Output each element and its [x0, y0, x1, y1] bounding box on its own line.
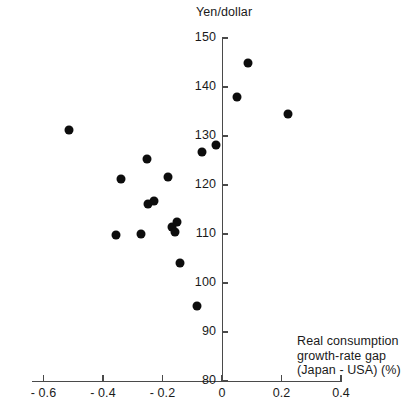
x-axis-caption-line-2: (Japan - USA) (%)	[297, 363, 401, 378]
x-tick-label-4: 0.2	[257, 386, 307, 400]
data-point	[176, 259, 185, 268]
y-tick-label-90: 90	[186, 324, 216, 338]
y-axis-line	[222, 38, 223, 382]
data-point	[198, 147, 207, 156]
data-point	[243, 58, 252, 67]
x-tick-1	[102, 375, 103, 381]
x-axis-caption-line-0: Real consumption	[297, 334, 401, 349]
y-tick-label-130: 130	[186, 128, 216, 142]
y-tick-label-80: 80	[186, 373, 216, 387]
data-point	[193, 302, 202, 311]
x-tick-label-1: - 0.4	[78, 386, 128, 400]
x-tick-label-2: - 0.2	[138, 386, 188, 400]
y-tick-80	[222, 380, 228, 381]
x-axis-caption-line-1: growth-rate gap	[297, 349, 401, 364]
data-point	[170, 227, 179, 236]
data-point	[149, 197, 158, 206]
x-tick-0	[43, 375, 44, 381]
x-tick-3	[221, 375, 222, 381]
data-point	[164, 173, 173, 182]
x-tick-label-0: - 0.6	[19, 386, 69, 400]
scatter-plot-figure: Yen/dollar 8090100110120130140150 - 0.6-…	[0, 0, 409, 413]
y-tick-label-120: 120	[186, 177, 216, 191]
y-tick-150	[222, 37, 228, 38]
data-point	[232, 92, 241, 101]
y-tick-110	[222, 233, 228, 234]
data-point	[112, 230, 121, 239]
data-point	[143, 155, 152, 164]
data-point	[212, 140, 221, 149]
x-tick-2	[162, 375, 163, 381]
y-tick-label-150: 150	[186, 30, 216, 44]
y-tick-140	[222, 86, 228, 87]
y-tick-90	[222, 331, 228, 332]
y-tick-120	[222, 184, 228, 185]
x-axis-caption: Real consumptiongrowth-rate gap(Japan - …	[297, 334, 401, 378]
y-tick-label-140: 140	[186, 79, 216, 93]
data-point	[116, 175, 125, 184]
y-tick-130	[222, 135, 228, 136]
y-tick-label-110: 110	[186, 226, 216, 240]
data-point	[284, 109, 293, 118]
data-point	[137, 230, 146, 239]
x-tick-4	[281, 375, 282, 381]
x-tick-label-5: 0.4	[316, 386, 366, 400]
y-tick-label-100: 100	[186, 275, 216, 289]
x-tick-label-3: 0	[197, 386, 247, 400]
data-point	[65, 125, 74, 134]
y-tick-100	[222, 282, 228, 283]
y-axis-title: Yen/dollar	[196, 5, 252, 19]
data-point	[173, 217, 182, 226]
